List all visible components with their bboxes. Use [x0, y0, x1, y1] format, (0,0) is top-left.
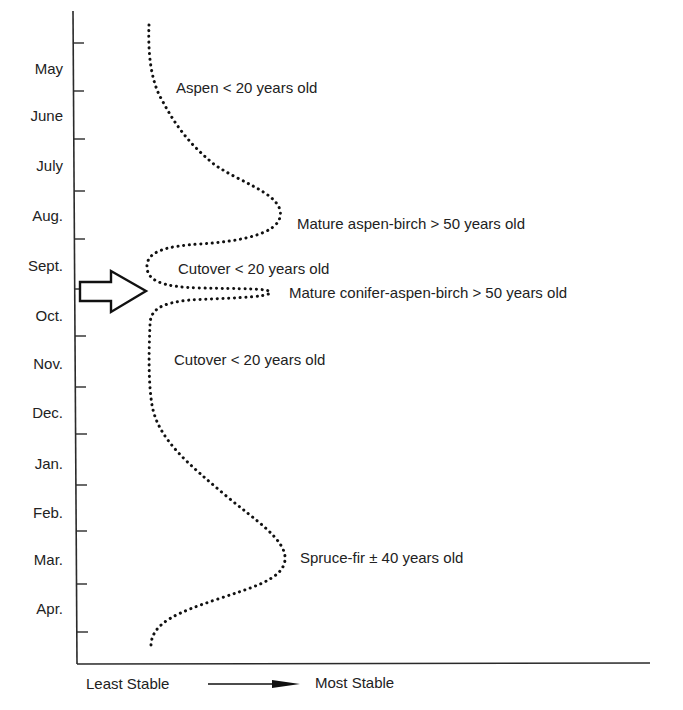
annotation-cutover-sept: Cutover < 20 years old: [178, 260, 329, 278]
month-label-feb: Feb.: [33, 504, 63, 522]
month-label-may: May: [35, 60, 63, 78]
x-label-least-stable: Least Stable: [86, 675, 169, 693]
month-label-dec: Dec.: [32, 404, 63, 422]
month-label-june: June: [30, 107, 63, 125]
month-label-july: July: [36, 157, 63, 175]
annotation-aspen: Aspen < 20 years old: [176, 79, 317, 97]
month-label-oct: Oct.: [35, 307, 63, 325]
y-axis: [73, 11, 77, 664]
annotation-cutover-nov: Cutover < 20 years old: [174, 351, 325, 369]
stability-curve: [147, 25, 285, 645]
month-label-jan: Jan.: [35, 455, 63, 473]
annotation-spruce-fir: Spruce-fir ± 40 years old: [300, 549, 463, 567]
month-label-nov: Nov.: [33, 355, 63, 373]
month-label-aug: Aug.: [32, 207, 63, 225]
x-label-most-stable: Most Stable: [315, 674, 394, 692]
annotation-mature-aspen-birch: Mature aspen-birch > 50 years old: [297, 215, 525, 233]
x-axis: [77, 663, 650, 664]
month-label-mar: Mar.: [34, 551, 63, 569]
annotation-mature-conifer-aspen-birch: Mature conifer-aspen-birch > 50 years ol…: [289, 284, 567, 302]
stability-direction-arrow: [208, 680, 300, 688]
hollow-arrow-icon: [80, 271, 146, 312]
chart-canvas: [0, 0, 683, 710]
month-label-apr: Apr.: [36, 600, 63, 618]
month-label-sept: Sept.: [28, 257, 63, 275]
